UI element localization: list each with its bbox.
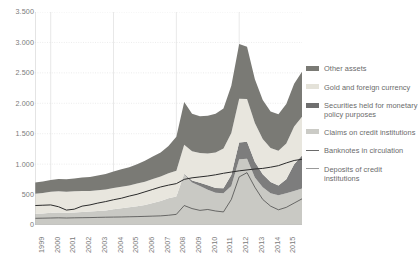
y-axis-tick-label: 1.000 xyxy=(1,161,34,168)
legend-item[interactable]: Claims on credit institutions xyxy=(306,128,419,138)
chart-figure: 05001.0001.5002.0002.5003.0003.500 19992… xyxy=(0,0,419,273)
legend-item-label: Deposits of credit institutions xyxy=(324,165,419,183)
x-axis-tick-label: 2015 xyxy=(289,237,296,253)
y-axis-tick-label: 0 xyxy=(1,221,34,228)
x-axis-tick-label: 2010 xyxy=(211,237,218,253)
x-axis-tick-label: 1999 xyxy=(38,237,45,253)
legend-line-marker xyxy=(306,168,319,169)
y-axis-tick-label: 3.500 xyxy=(1,8,34,15)
x-axis-tick-label: 2004 xyxy=(117,237,124,253)
x-axis-tick-label: 2001 xyxy=(69,237,76,253)
x-axis-tick-label: 2002 xyxy=(85,237,92,253)
legend-item-label: Claims on credit institutions xyxy=(324,128,419,137)
x-axis-tick-label: 2006 xyxy=(148,237,155,253)
y-axis-tick-label: 500 xyxy=(1,191,34,198)
y-axis: 05001.0001.5002.0002.5003.0003.500 xyxy=(0,12,34,225)
legend-item[interactable]: Gold and foreign currency xyxy=(306,83,419,93)
y-axis-tick-label: 2.500 xyxy=(1,69,34,76)
x-axis-tick-label: 2003 xyxy=(101,237,108,253)
chart-canvas xyxy=(35,12,302,225)
x-axis-tick-label: 2007 xyxy=(164,237,171,253)
plot-container: 05001.0001.5002.0002.5003.0003.500 19992… xyxy=(0,0,310,273)
y-axis-tick-label: 2.000 xyxy=(1,100,34,107)
legend-item-label: Banknotes in circulation xyxy=(324,146,419,155)
legend-item[interactable]: Banknotes in circulation xyxy=(306,146,419,156)
legend-line-marker xyxy=(306,150,319,151)
x-axis-tick-label: 2014 xyxy=(274,237,281,253)
y-axis-tick-label: 1.500 xyxy=(1,130,34,137)
legend-item-label: Securities held for monetary policy purp… xyxy=(324,101,419,119)
x-axis-tick-label: 2009 xyxy=(195,237,202,253)
legend-color-swatch xyxy=(306,84,319,89)
x-axis-tick-label: 2000 xyxy=(54,237,61,253)
x-axis-tick-label: 2011 xyxy=(226,237,233,253)
legend-item-label: Gold and foreign currency xyxy=(324,83,419,92)
legend-item[interactable]: Other assets xyxy=(306,64,419,74)
legend-item[interactable]: Securities held for monetary policy purp… xyxy=(306,101,419,119)
legend-color-swatch xyxy=(306,103,319,108)
legend-item-label: Other assets xyxy=(324,64,419,73)
plot-area xyxy=(35,12,302,225)
legend-color-swatch xyxy=(306,66,319,71)
x-axis-tick-label: 2012 xyxy=(242,237,249,253)
x-axis-tick-label: 2008 xyxy=(179,237,186,253)
y-axis-tick-label: 3.000 xyxy=(1,39,34,46)
x-axis-tick-label: 2005 xyxy=(132,237,139,253)
legend-item[interactable]: Deposits of credit institutions xyxy=(306,165,419,183)
chart-legend: Other assetsGold and foreign currencySec… xyxy=(306,64,419,192)
legend-color-swatch xyxy=(306,129,319,134)
x-axis: 1999200020012002200320042005200620072008… xyxy=(35,227,302,273)
x-axis-tick-label: 2013 xyxy=(258,237,265,253)
